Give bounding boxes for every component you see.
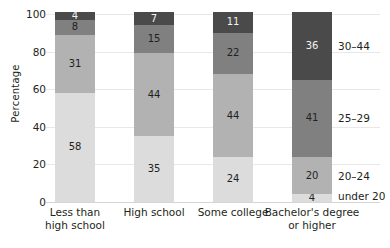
series-label-1: 25–29 bbox=[338, 113, 370, 124]
bar-value-label: 22 bbox=[227, 48, 240, 58]
y-tick-label-20: 20 bbox=[6, 159, 46, 170]
x-category-label-0: Less thanhigh school bbox=[32, 206, 118, 232]
bar-value-label: 15 bbox=[148, 34, 161, 44]
bar-segment-2-2[interactable]: 22 bbox=[213, 33, 253, 74]
bar-segment-1-0[interactable]: 35 bbox=[134, 136, 174, 202]
bar-segment-3-3[interactable]: 36 bbox=[292, 12, 332, 80]
bar-value-label: 44 bbox=[227, 111, 240, 121]
bar-value-label: 4 bbox=[309, 193, 315, 203]
bar-3[interactable]: 4204136 bbox=[292, 12, 332, 202]
bar-segment-1-2[interactable]: 15 bbox=[134, 25, 174, 53]
bar-value-label: 11 bbox=[227, 17, 240, 27]
bar-value-label: 20 bbox=[306, 171, 319, 181]
gridline-0 bbox=[46, 202, 380, 203]
y-tick-label-60: 60 bbox=[6, 84, 46, 95]
bar-0[interactable]: 583184 bbox=[55, 12, 95, 202]
series-label-3: under 20 bbox=[338, 191, 385, 202]
plot-area: 5831843544157244422114204136 bbox=[46, 14, 380, 202]
stacked-bar-chart: Percentage 020406080100 5831843544157244… bbox=[0, 0, 390, 248]
bar-value-label: 41 bbox=[306, 113, 319, 123]
bar-segment-0-2[interactable]: 8 bbox=[55, 20, 95, 35]
bar-segment-3-2[interactable]: 41 bbox=[292, 80, 332, 157]
bar-segment-2-0[interactable]: 24 bbox=[213, 157, 253, 202]
x-category-label-line: High school bbox=[111, 206, 197, 219]
bar-value-label: 7 bbox=[151, 14, 157, 24]
x-category-label-line: high school bbox=[32, 219, 118, 232]
bar-segment-0-1[interactable]: 31 bbox=[55, 35, 95, 93]
y-tick-label-100: 100 bbox=[6, 9, 46, 20]
bar-segment-1-1[interactable]: 44 bbox=[134, 53, 174, 136]
bar-value-label: 36 bbox=[306, 41, 319, 51]
bar-value-label: 44 bbox=[148, 90, 161, 100]
bar-segment-3-1[interactable]: 20 bbox=[292, 157, 332, 195]
bar-segment-0-3[interactable]: 4 bbox=[55, 12, 95, 20]
x-category-label-line: or higher bbox=[258, 219, 366, 232]
bar-segment-0-0[interactable]: 58 bbox=[55, 93, 95, 202]
bar-value-label: 8 bbox=[72, 22, 78, 32]
x-category-label-line: Bachelor's degree bbox=[258, 206, 366, 219]
y-tick-label-40: 40 bbox=[6, 122, 46, 133]
x-category-label-3: Bachelor's degreeor higher bbox=[258, 206, 366, 232]
bar-value-label: 35 bbox=[148, 164, 161, 174]
bar-value-label: 4 bbox=[72, 11, 78, 21]
bar-segment-2-3[interactable]: 11 bbox=[213, 12, 253, 33]
x-category-label-line: Less than bbox=[32, 206, 118, 219]
bar-value-label: 24 bbox=[227, 174, 240, 184]
bar-1[interactable]: 3544157 bbox=[134, 12, 174, 202]
series-label-2: 20–24 bbox=[338, 171, 370, 182]
bar-segment-2-1[interactable]: 44 bbox=[213, 74, 253, 157]
bar-value-label: 58 bbox=[69, 142, 82, 152]
y-tick-label-80: 80 bbox=[6, 47, 46, 58]
bar-segment-1-3[interactable]: 7 bbox=[134, 12, 174, 25]
series-label-0: 30–44 bbox=[338, 41, 370, 52]
bar-2[interactable]: 24442211 bbox=[213, 12, 253, 202]
bar-value-label: 31 bbox=[69, 59, 82, 69]
x-category-label-1: High school bbox=[111, 206, 197, 219]
bar-segment-3-0[interactable]: 4 bbox=[292, 194, 332, 202]
